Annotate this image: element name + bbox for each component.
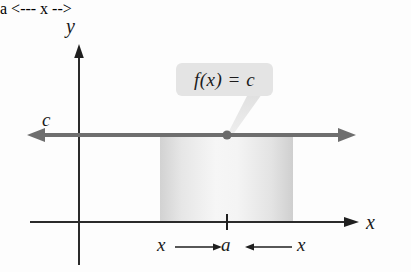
- delta-band-region: [160, 136, 293, 222]
- y-axis-arrowhead-icon: [74, 44, 84, 58]
- approach-label-x-right: x: [297, 234, 305, 256]
- callout-leader-icon: [228, 94, 262, 136]
- figure-root: y x c f(x) = c a <--- x --> x a x: [0, 0, 411, 272]
- x-axis-arrowhead-icon: [344, 217, 359, 227]
- x-axis-label: x: [366, 212, 375, 232]
- function-line-right-arrowhead-icon: [338, 128, 356, 142]
- y-axis-label: y: [66, 16, 75, 36]
- diagram-canvas: [0, 0, 411, 272]
- function-callout-label: f(x) = c: [194, 69, 255, 91]
- function-line-left-arrowhead-icon: [27, 128, 45, 142]
- approach-annotation-group: x a x: [155, 234, 315, 260]
- y-intercept-label-c: c: [42, 110, 50, 129]
- x-axis-point-label-a: a: [221, 234, 231, 256]
- approach-label-x-left: x: [157, 234, 165, 256]
- point-marker-at-a: [222, 130, 231, 139]
- function-callout-box: f(x) = c: [176, 63, 273, 96]
